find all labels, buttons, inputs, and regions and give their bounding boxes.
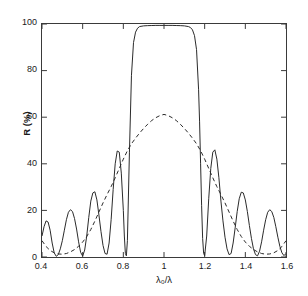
series-dashed-envelope xyxy=(42,114,286,254)
series-solid-response xyxy=(42,25,286,256)
y-tick-label: 20 xyxy=(11,206,37,215)
y-tick-label: 100 xyxy=(11,18,37,27)
x-tick-label: 1.2 xyxy=(193,262,217,271)
chart-figure: 100 80 60 40 20 0 0.4 0.6 0.8 1 1.2 1.4 … xyxy=(0,0,308,296)
x-tick-label: 0.6 xyxy=(70,262,94,271)
y-axis-label: R (%) xyxy=(21,94,32,154)
x-axis-label: λ₀/λ xyxy=(41,274,287,285)
y-tick-label: 40 xyxy=(11,159,37,168)
x-tick-marks xyxy=(42,24,286,257)
x-tick-label: 0.4 xyxy=(29,262,53,271)
curve-layer xyxy=(42,24,286,257)
y-tick-marks xyxy=(42,24,286,257)
x-tick-label: 1.4 xyxy=(234,262,258,271)
x-tick-label: 1 xyxy=(152,262,176,271)
x-tick-label: 1.6 xyxy=(275,262,299,271)
x-tick-label: 0.8 xyxy=(111,262,135,271)
plot-area xyxy=(41,23,287,258)
y-tick-label: 80 xyxy=(11,65,37,74)
y-tick-label: 0 xyxy=(11,253,37,262)
